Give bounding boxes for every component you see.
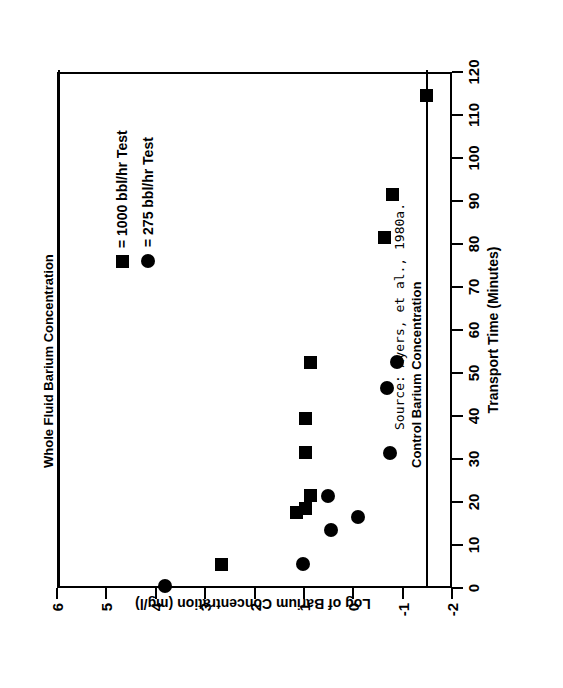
legend: = 1000 bbl/hr Test = 275 bbl/hr Test [111, 130, 163, 268]
data-point-circle [296, 558, 310, 572]
annotation-line-whole-fluid-barium-concentration [58, 70, 60, 586]
circle-marker-icon [141, 254, 155, 268]
data-point-square [215, 558, 228, 571]
data-point-circle [324, 523, 338, 537]
x-tick-label: 90 [466, 193, 481, 210]
legend-label-1000: = 1000 bbl/hr Test [114, 130, 130, 248]
figure-page: 6543210-1-2 Log of Barium Concentration … [0, 0, 563, 688]
data-point-square [420, 89, 433, 102]
x-tick-label: 80 [466, 236, 481, 253]
x-tick-label: 20 [466, 494, 481, 511]
x-tick [452, 587, 463, 589]
data-point-square [386, 188, 399, 201]
x-tick [452, 329, 463, 331]
annotation-label-control-barium-concentration: Control Barium Concentration [409, 282, 424, 468]
x-tick [452, 200, 463, 202]
x-tick [452, 157, 463, 159]
legend-item-275: = 275 bbl/hr Test [137, 130, 159, 268]
x-tick-label: 40 [466, 408, 481, 425]
x-tick-label: 60 [466, 322, 481, 339]
data-point-square [304, 489, 317, 502]
x-tick [452, 544, 463, 546]
rotated-figure: 6543210-1-2 Log of Barium Concentration … [47, 44, 515, 644]
square-marker-icon [116, 255, 129, 268]
x-tick-label: 0 [466, 584, 481, 592]
data-point-circle [321, 489, 335, 503]
x-tick-label: 120 [466, 59, 481, 84]
x-tick [452, 71, 463, 73]
x-tick-label: 10 [466, 537, 481, 554]
x-tick-label: 50 [466, 365, 481, 382]
data-point-square [299, 446, 312, 459]
x-tick [452, 372, 463, 374]
data-point-square [299, 502, 312, 515]
annotation-line-control-barium-concentration [426, 70, 428, 586]
data-point-circle [383, 446, 397, 460]
data-point-square [304, 356, 317, 369]
x-tick [452, 243, 463, 245]
x-tick-label: 110 [466, 103, 481, 127]
x-axis: 0102030405060708090100110120 [452, 72, 512, 588]
data-point-circle [351, 510, 365, 524]
x-tick [452, 458, 463, 460]
source-caption: Source: Ayers, et al., 1980a. [392, 203, 407, 430]
x-tick-label: 70 [466, 279, 481, 296]
x-tick-label: 100 [466, 145, 481, 170]
x-tick [452, 415, 463, 417]
x-axis-title: Transport Time (Minutes) [485, 72, 501, 588]
x-tick [452, 114, 463, 116]
data-point-square [299, 412, 312, 425]
y-axis-title: Log of Barium Concentration (mg/l) [53, 596, 453, 612]
data-point-square [378, 231, 391, 244]
annotation-label-whole-fluid-barium-concentration: Whole Fluid Barium Concentration [41, 254, 56, 468]
legend-label-275: = 275 bbl/hr Test [140, 137, 156, 247]
x-tick [452, 286, 463, 288]
x-tick-label: 30 [466, 451, 481, 468]
x-tick [452, 501, 463, 503]
legend-item-1000: = 1000 bbl/hr Test [111, 130, 133, 268]
